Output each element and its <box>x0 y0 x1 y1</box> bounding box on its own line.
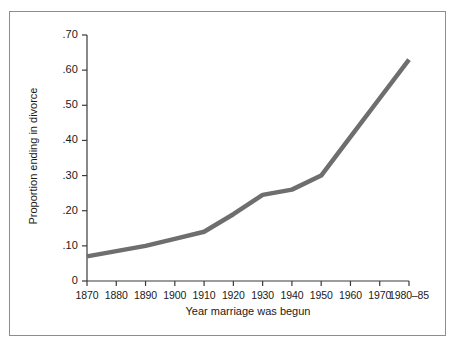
y-tick-label: .40 <box>40 133 78 145</box>
y-tick-label: .60 <box>40 63 78 75</box>
y-tick-label: 0 <box>40 274 78 286</box>
x-tick-label: 1980–85 <box>381 289 437 301</box>
y-tick-label: .30 <box>40 169 78 181</box>
y-axis-title: Proportion ending in divorce <box>27 76 39 236</box>
axes <box>87 35 409 281</box>
y-tick-label: .10 <box>40 239 78 251</box>
x-axis-title: Year marriage was begun <box>87 305 409 317</box>
y-tick-label: .70 <box>40 28 78 40</box>
x-axis-ticks <box>87 281 409 286</box>
chart-figure: 0.10.20.30.40.50.60.70 18701880189019001… <box>0 0 458 349</box>
y-tick-label: .50 <box>40 98 78 110</box>
y-tick-label: .20 <box>40 204 78 216</box>
data-series-line <box>87 60 409 257</box>
y-axis-ticks <box>82 35 87 281</box>
